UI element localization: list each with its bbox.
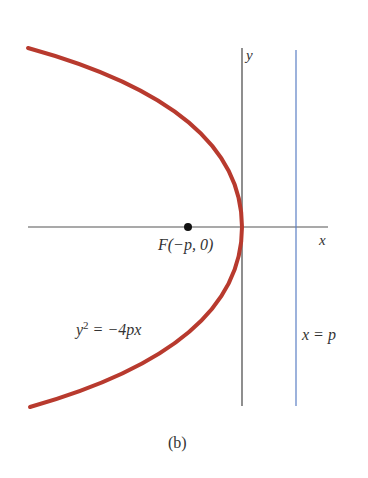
figure-caption: (b) [168, 434, 187, 452]
directrix-label: x = p [301, 326, 336, 344]
focus-label: F(−p, 0) [157, 236, 213, 254]
y-axis-label: y [244, 47, 253, 63]
focus-point [184, 223, 192, 231]
x-axis-label: x [318, 232, 326, 248]
equation-label: y2 = −4px [74, 319, 141, 339]
parabola-diagram: y x F(−p, 0) y2 = −4px x = p (b) [0, 0, 368, 478]
